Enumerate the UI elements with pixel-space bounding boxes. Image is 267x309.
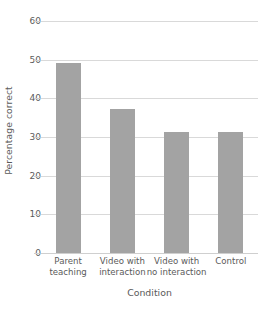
- y-axis-tick-mark: [34, 98, 40, 99]
- x-axis-labels: ParentteachingVideo withinteractionVideo…: [30, 256, 267, 286]
- bar: [164, 132, 189, 253]
- x-axis-title: Condition: [41, 287, 258, 298]
- bar: [110, 109, 135, 253]
- y-axis-tick-mark: [34, 21, 40, 22]
- y-axis-title: Percentage correct: [0, 0, 16, 260]
- y-axis-tick-mark: [34, 214, 40, 215]
- y-axis-tick-mark: [34, 137, 40, 138]
- gridline: [41, 253, 258, 254]
- plot-area: [41, 21, 258, 253]
- bar-chart: Percentage correct 0102030405060 Parentt…: [0, 0, 267, 309]
- x-axis-tick-label: Control: [200, 256, 262, 267]
- bar: [218, 132, 243, 253]
- y-axis-tick-mark: [34, 176, 40, 177]
- x-axis-tick-label: Video withinteraction: [91, 256, 153, 278]
- y-axis-tick-mark: [34, 60, 40, 61]
- x-axis-tick-label-line: Video with: [91, 256, 153, 267]
- y-axis-title-text: Percentage correct: [3, 86, 14, 175]
- bar: [56, 63, 81, 253]
- x-axis-tick-label-line: interaction: [91, 267, 153, 278]
- x-axis-tick-label: Video withno interaction: [146, 256, 208, 278]
- x-axis-tick-label-line: Parent: [37, 256, 99, 267]
- x-axis-tick-label: Parentteaching: [37, 256, 99, 278]
- x-axis-tick-label-line: Control: [200, 256, 262, 267]
- x-axis-tick-label-line: teaching: [37, 267, 99, 278]
- y-axis-tick-mark: [34, 253, 40, 254]
- x-axis-tick-label-line: Video with: [146, 256, 208, 267]
- bars-layer: [41, 21, 258, 253]
- x-axis-tick-label-line: no interaction: [146, 267, 208, 278]
